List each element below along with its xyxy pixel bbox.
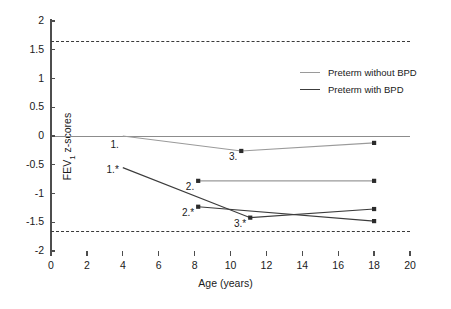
lower-limit-reference-line (51, 231, 410, 232)
x-tick-label: 0 (39, 259, 63, 271)
y-tick (50, 164, 55, 165)
x-tick (266, 251, 267, 256)
x-tick (86, 251, 87, 256)
y-axis-title-tail: z-scores (61, 113, 73, 156)
legend-swatch-without-bpd (300, 72, 320, 73)
upper-limit-reference-line (51, 41, 410, 42)
y-tick (50, 49, 55, 50)
y-tick-label: -2 (4, 245, 44, 255)
x-axis-title: Age (years) (0, 277, 451, 289)
legend-label-without-bpd: Preterm without BPD (328, 67, 417, 78)
legend-swatch-with-bpd (300, 89, 320, 90)
x-tick (302, 251, 303, 256)
x-tick-label: 12 (254, 259, 278, 271)
chart-figure: FEV1 z-scores 21.510.50-0.5-1-1.5-2 0246… (0, 0, 451, 309)
y-tick-label: 0.5 (4, 101, 44, 111)
point-label: 2. (186, 180, 197, 191)
x-tick-label: 8 (183, 259, 207, 271)
y-tick (50, 222, 55, 223)
y-tick (50, 107, 55, 108)
legend-item-with-bpd: Preterm with BPD (300, 81, 417, 98)
y-tick (50, 78, 55, 79)
point-label: 3. (229, 150, 240, 161)
y-tick-label: 2 (4, 15, 44, 25)
y-tick (50, 135, 55, 136)
x-tick (409, 251, 410, 256)
y-tick-label: -1 (4, 188, 44, 198)
y-tick (50, 20, 55, 21)
x-tick-label: 2 (75, 259, 99, 271)
x-tick (50, 251, 51, 256)
chart-legend: Preterm without BPD Preterm with BPD (300, 64, 417, 98)
point-label: 2.* (182, 206, 197, 217)
y-axis-title-base: FEV (61, 160, 73, 180)
x-tick-label: 20 (398, 259, 422, 271)
y-tick-label: -0.5 (4, 159, 44, 169)
legend-item-without-bpd: Preterm without BPD (300, 64, 417, 81)
y-tick-label: -1.5 (4, 216, 44, 226)
x-tick-label: 10 (219, 259, 243, 271)
zero-reference-line (51, 136, 410, 138)
x-tick (158, 251, 159, 256)
y-tick-label: 0 (4, 130, 44, 140)
x-tick-label: 18 (362, 259, 386, 271)
point-label: 1. (110, 139, 121, 150)
point-label: 1.* (107, 163, 122, 174)
point-label: 3.* (234, 217, 249, 228)
x-tick (230, 251, 231, 256)
x-tick (194, 251, 195, 256)
x-tick (122, 251, 123, 256)
x-tick-label: 16 (326, 259, 350, 271)
x-tick-label: 14 (290, 259, 314, 271)
y-tick-label: 1 (4, 73, 44, 83)
y-axis-title-subscript: 1 (68, 155, 77, 159)
legend-label-with-bpd: Preterm with BPD (328, 84, 404, 95)
x-tick-label: 4 (111, 259, 135, 271)
x-tick (373, 251, 374, 256)
y-axis-title: FEV1 z-scores (61, 77, 76, 217)
y-tick (50, 193, 55, 194)
y-tick-label: 1.5 (4, 44, 44, 54)
x-tick-label: 6 (147, 259, 171, 271)
x-tick (338, 251, 339, 256)
